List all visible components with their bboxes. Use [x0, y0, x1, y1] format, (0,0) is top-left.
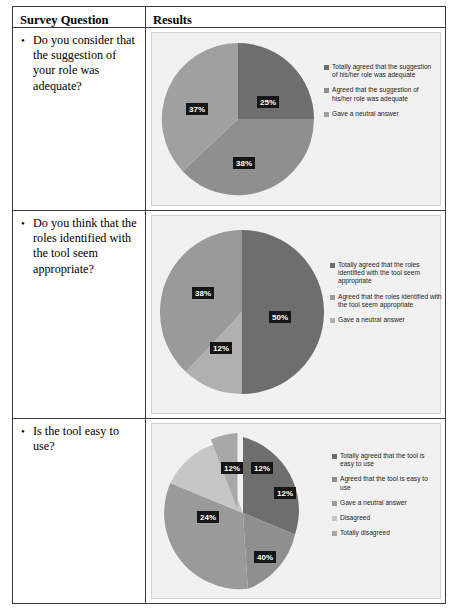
results-cell-3: 12% 12% 40% 24% 12% Totally agreed that … — [146, 419, 445, 603]
pie-svg-3 — [158, 428, 328, 598]
legend-swatch-icon — [330, 295, 335, 300]
header-label-survey-question: Survey Question — [20, 13, 109, 27]
pie-data-label-3-4: 12% — [221, 462, 243, 474]
header-label-results: Results — [153, 13, 192, 27]
bullet-icon: • — [19, 424, 33, 454]
question-cell-2: • Do you think that the roles identified… — [13, 211, 146, 418]
table-row: • Is the tool easy to use? — [13, 419, 445, 603]
pie-data-label-1-1: 38% — [233, 157, 255, 169]
pie-svg-2 — [156, 226, 328, 398]
question-text-3: Is the tool easy to use? — [33, 424, 139, 454]
bullet-icon: • — [19, 216, 33, 277]
legend-label-1-2: Gave a neutral answer — [332, 110, 399, 118]
pie-chart-2: 50% 38% 12% Totally agreed that the role… — [151, 215, 441, 414]
legend-item: Gave a neutral answer — [330, 316, 442, 324]
question-cell-1: • Do you consider that the suggestion of… — [13, 28, 146, 210]
header-cell-results: Results — [146, 7, 445, 27]
pie-graphic-2 — [156, 226, 328, 398]
legend-label-3-4: Totally disagreed — [340, 529, 390, 537]
legend-item: Disagreed — [332, 514, 440, 522]
survey-results-table: Survey Question Results • Do you conside… — [12, 6, 446, 604]
legend-2: Totally agreed that the roles identified… — [330, 261, 442, 331]
table-row: • Do you think that the roles identified… — [13, 211, 445, 419]
table-header-row: Survey Question Results — [13, 7, 445, 28]
legend-label-3-0: Totally agreed that the tool is easy to … — [340, 452, 440, 468]
pie-data-label-3-0: 12% — [251, 462, 273, 474]
pie-data-label-2-2: 12% — [210, 342, 232, 354]
question-cell-3: • Is the tool easy to use? — [13, 419, 146, 603]
legend-swatch-icon — [324, 88, 329, 93]
results-cell-2: 50% 38% 12% Totally agreed that the role… — [146, 211, 445, 418]
legend-swatch-icon — [324, 112, 329, 117]
question-bullet-item-3: • Is the tool easy to use? — [19, 424, 139, 454]
pie-chart-1: 25% 38% 37% Totally agreed that the sugg… — [151, 32, 441, 206]
legend-swatch-icon — [332, 477, 337, 482]
legend-label-3-1: Agreed that the tool is easy to use — [340, 475, 440, 491]
legend-swatch-icon — [332, 531, 337, 536]
legend-swatch-icon — [324, 65, 329, 70]
pie-graphic-3 — [158, 428, 328, 598]
header-cell-question: Survey Question — [13, 7, 146, 27]
pie-data-label-1-0: 25% — [257, 96, 279, 108]
pie-data-label-3-2: 40% — [254, 551, 276, 563]
legend-label-1-0: Totally agreed that the suggestion of hi… — [332, 63, 434, 79]
legend-swatch-icon — [332, 516, 337, 521]
legend-item: Gave a neutral answer — [324, 110, 434, 118]
legend-label-2-0: Totally agreed that the roles identified… — [338, 261, 442, 286]
legend-label-2-2: Gave a neutral answer — [338, 316, 405, 324]
legend-item: Gave a neutral answer — [332, 499, 440, 507]
pie-graphic-1 — [158, 39, 318, 199]
legend-label-1-1: Agreed that the suggestion of his/her ro… — [332, 86, 434, 102]
legend-label-3-3: Disagreed — [340, 514, 370, 522]
bullet-icon: • — [19, 33, 33, 94]
question-bullet-item-2: • Do you think that the roles identified… — [19, 216, 139, 277]
legend-3: Totally agreed that the tool is easy to … — [332, 452, 440, 544]
pie-data-label-3-3: 24% — [197, 511, 219, 523]
legend-label-3-2: Gave a neutral answer — [340, 499, 407, 507]
pie-chart-3: 12% 12% 40% 24% 12% Totally agreed that … — [151, 423, 441, 599]
legend-item: Totally agreed that the roles identified… — [330, 261, 442, 286]
legend-swatch-icon — [330, 263, 335, 268]
results-cell-1: 25% 38% 37% Totally agreed that the sugg… — [146, 28, 445, 210]
legend-item: Agreed that the roles identified with th… — [330, 293, 442, 309]
legend-item: Totally agreed that the tool is easy to … — [332, 452, 440, 468]
question-bullet-item-1: • Do you consider that the suggestion of… — [19, 33, 139, 94]
legend-swatch-icon — [330, 318, 335, 323]
question-text-2: Do you think that the roles identified w… — [33, 216, 139, 277]
legend-item: Agreed that the tool is easy to use — [332, 475, 440, 491]
legend-item: Totally disagreed — [332, 529, 440, 537]
legend-swatch-icon — [332, 501, 337, 506]
legend-item: Totally agreed that the suggestion of hi… — [324, 63, 434, 79]
legend-item: Agreed that the suggestion of his/her ro… — [324, 86, 434, 102]
pie-data-label-2-0: 50% — [269, 311, 291, 323]
legend-1: Totally agreed that the suggestion of hi… — [324, 63, 434, 125]
legend-swatch-icon — [332, 454, 337, 459]
pie-data-label-1-2: 37% — [186, 103, 208, 115]
question-text-1: Do you consider that the suggestion of y… — [33, 33, 139, 94]
table-row: • Do you consider that the suggestion of… — [13, 28, 445, 211]
pie-data-label-2-1: 38% — [192, 287, 214, 299]
legend-label-2-1: Agreed that the roles identified with th… — [338, 293, 442, 309]
pie-data-label-3-1: 12% — [274, 487, 296, 499]
pie-svg-1 — [158, 39, 318, 199]
